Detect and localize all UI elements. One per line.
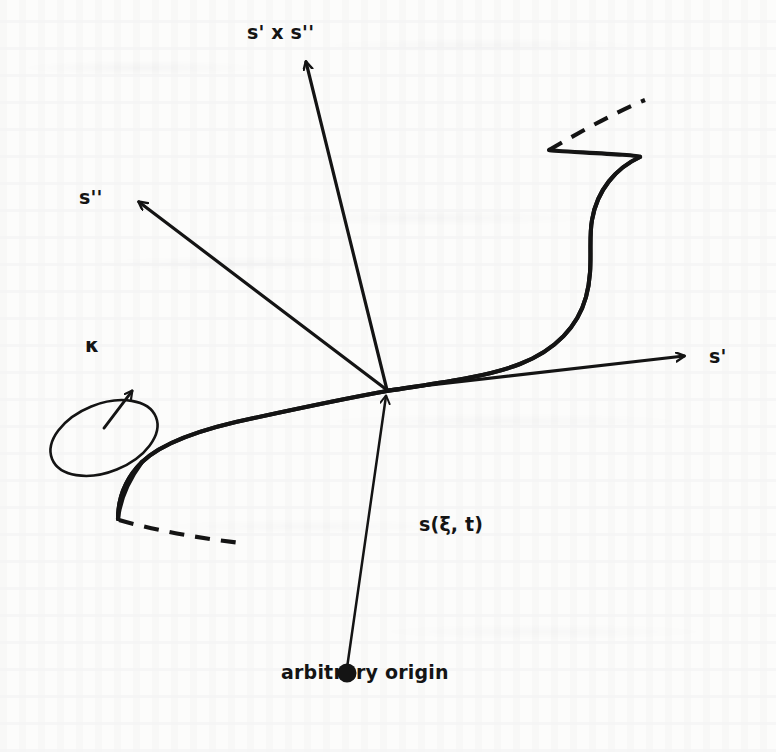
tangent-vector-label: s' [709,345,727,367]
curvature-label: κ [85,333,99,357]
osculating-circle [39,385,168,490]
curvature-vector-arrow [104,391,132,428]
binormal-vector-arrow [306,62,387,390]
frenet-frame-diagram [0,0,776,752]
origin-label: arbitrary origin [281,661,449,683]
tangent-vector-arrow [387,356,684,390]
position-vector-arrow [347,396,386,668]
position-vector-label: s(ξ, t) [419,513,483,535]
curve-dashed-left [119,520,241,543]
figure-page: s' x s'' s'' s' κ s(ξ, t) arbitrary orig… [0,0,776,752]
normal-vector-arrow [139,202,387,390]
curve-dashed-right [549,100,645,150]
space-curve [118,150,640,519]
normal-vector-label: s'' [79,186,103,208]
binormal-vector-label: s' x s'' [247,21,314,43]
